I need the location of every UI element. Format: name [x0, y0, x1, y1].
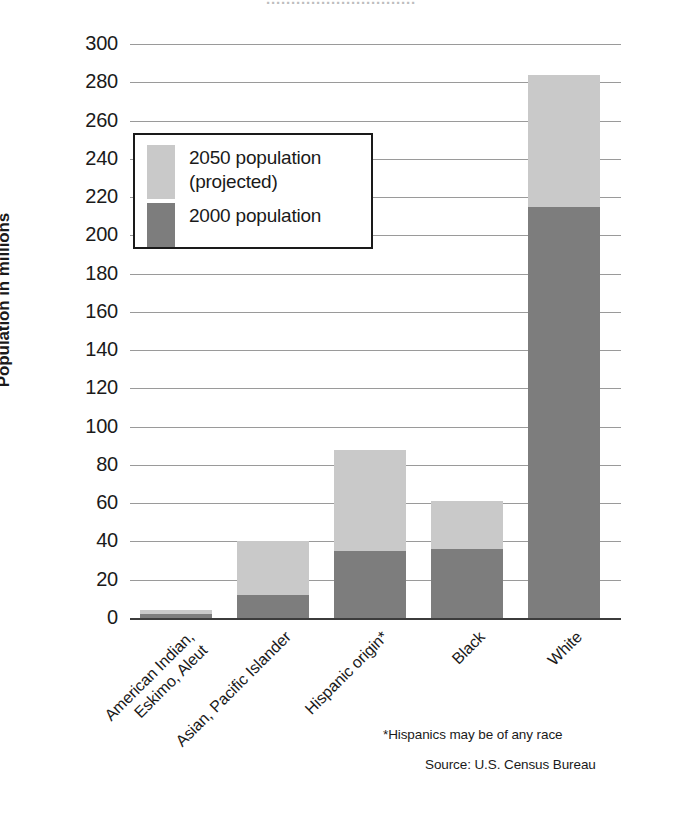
y-tick-label-20: 20	[62, 568, 118, 591]
cropped-title-strip: ······························	[0, 0, 682, 10]
y-tick-label-120: 120	[62, 376, 118, 399]
x-axis-label-0: American Indian,Eskimo, Aleut	[1, 628, 212, 827]
chart-legend: 2050 population (projected) 2000 populat…	[133, 133, 373, 249]
legend-item-projected: 2050 population (projected)	[147, 145, 321, 199]
y-tick-label-0: 0	[62, 606, 118, 629]
y-tick-label-100: 100	[62, 415, 118, 438]
y-tick-label-160: 160	[62, 300, 118, 323]
y-tick-label-280: 280	[62, 70, 118, 93]
bar-segment-base	[431, 549, 503, 618]
bar-segment-base	[528, 207, 600, 618]
bar-segment-projected	[431, 501, 503, 549]
gridline-0	[130, 618, 621, 620]
y-tick-label-140: 140	[62, 338, 118, 361]
y-tick-label-220: 220	[62, 185, 118, 208]
legend-label-base-line1: 2000 population	[189, 205, 321, 226]
bar-segment-base	[334, 551, 406, 618]
legend-label-projected-line2: (projected)	[189, 171, 278, 192]
plot-area: 3002802602402202001801601401201008060402…	[140, 44, 615, 618]
legend-swatch-projected	[147, 145, 175, 199]
x-axis-label-line1: American Indian,	[1, 628, 198, 825]
legend-swatch-base	[147, 203, 175, 247]
bar-group	[237, 541, 309, 618]
bar-segment-projected	[334, 450, 406, 551]
bar-group	[140, 610, 212, 618]
footnote-hispanic: *Hispanics may be of any race	[383, 727, 562, 742]
x-axis-label-line1: Hispanic origin*	[195, 628, 392, 825]
bar-group	[528, 75, 600, 618]
bar-group	[431, 501, 503, 618]
bar-segment-projected	[237, 541, 309, 595]
y-tick-label-260: 260	[62, 109, 118, 132]
y-tick-label-80: 80	[62, 453, 118, 476]
chart-figure: ······························ Populatio…	[0, 0, 682, 827]
bar-group	[334, 450, 406, 618]
bar-segment-base	[237, 595, 309, 618]
y-axis-title: Population in millions	[0, 213, 14, 387]
legend-label-base: 2000 population	[189, 203, 321, 228]
bar-segment-base	[140, 614, 212, 618]
y-tick-label-200: 200	[62, 223, 118, 246]
y-tick-label-240: 240	[62, 147, 118, 170]
gridline-300	[130, 44, 621, 45]
y-tick-label-40: 40	[62, 529, 118, 552]
y-tick-label-60: 60	[62, 491, 118, 514]
y-tick-label-180: 180	[62, 262, 118, 285]
x-axis-label-2: Hispanic origin*	[195, 628, 392, 825]
legend-label-projected-line1: 2050 population	[189, 147, 321, 168]
y-tick-label-300: 300	[62, 32, 118, 55]
bar-segment-projected	[528, 75, 600, 207]
legend-label-projected: 2050 population (projected)	[189, 145, 321, 195]
footnote-source: Source: U.S. Census Bureau	[425, 757, 596, 772]
legend-item-base: 2000 population	[147, 203, 321, 247]
